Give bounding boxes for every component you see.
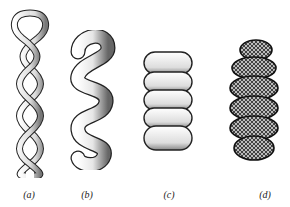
panel-d-supercoil: [226, 36, 282, 170]
panel-a-twisted-strands: [8, 8, 52, 178]
panel-b-label: (b): [72, 189, 102, 200]
supercoil-illustration: [226, 36, 282, 170]
twisted-strands-illustration: [8, 8, 52, 178]
thick-coil-illustration: [68, 30, 116, 170]
solenoid-illustration: [140, 48, 196, 158]
panel-d-label: (d): [250, 189, 280, 200]
panel-a-label: (a): [14, 189, 44, 200]
panel-c-solenoid: [140, 48, 196, 158]
panel-b-thick-coil: [68, 30, 116, 170]
panel-c-label: (c): [154, 189, 184, 200]
coil-figure: (a) (b): [0, 0, 290, 207]
